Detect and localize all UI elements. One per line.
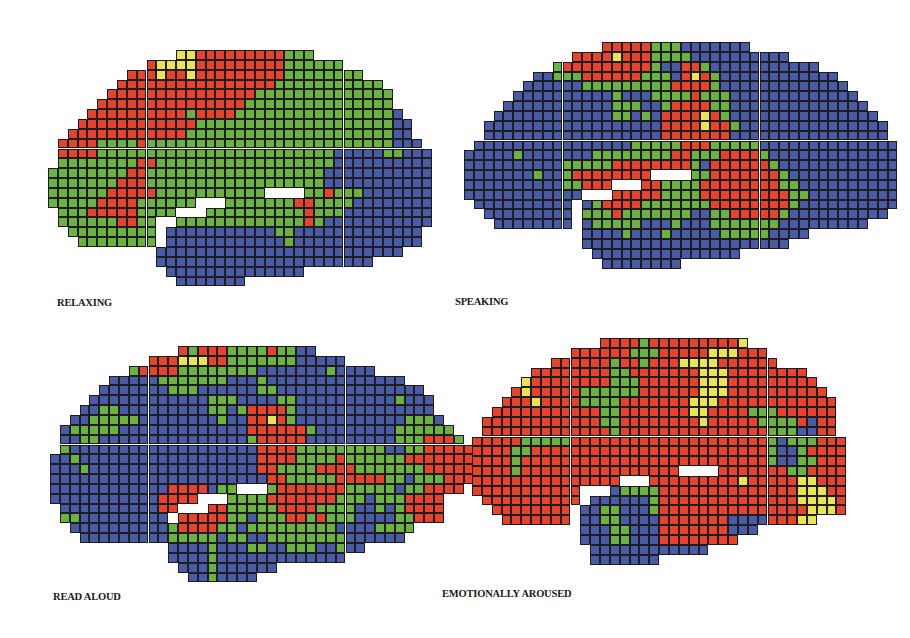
cell-blue bbox=[50, 474, 60, 484]
cell-green bbox=[740, 229, 750, 239]
cell-blue bbox=[235, 227, 245, 237]
cell-green bbox=[671, 200, 681, 210]
cell-green bbox=[405, 425, 415, 435]
cell-blue bbox=[129, 533, 139, 543]
cell-white bbox=[620, 476, 630, 486]
cell-red bbox=[196, 80, 206, 90]
cell-blue bbox=[363, 178, 373, 188]
cell-green bbox=[720, 101, 730, 111]
cell-green bbox=[294, 99, 304, 109]
cell-blue bbox=[383, 158, 393, 168]
cell-green bbox=[217, 376, 227, 386]
cell-green bbox=[247, 494, 257, 504]
cell-blue bbox=[186, 267, 196, 277]
cell-blue bbox=[80, 513, 90, 523]
cell-blue bbox=[543, 200, 553, 210]
cell-blue bbox=[639, 535, 649, 545]
cell-blue bbox=[582, 101, 592, 111]
cell-white bbox=[237, 484, 247, 494]
cell-red bbox=[206, 60, 216, 70]
cell-blue bbox=[393, 227, 403, 237]
cell-red bbox=[649, 407, 659, 417]
cell-blue bbox=[336, 435, 346, 445]
cell-blue bbox=[296, 366, 306, 376]
cell-blue bbox=[139, 395, 149, 405]
cell-red bbox=[158, 356, 168, 366]
cell-blue bbox=[828, 160, 838, 170]
cell-green bbox=[373, 139, 383, 149]
cell-red bbox=[671, 150, 681, 160]
cell-green bbox=[393, 149, 403, 159]
cell-blue bbox=[208, 385, 218, 395]
cell-green bbox=[265, 178, 275, 188]
cell-red bbox=[669, 358, 679, 368]
cell-green bbox=[373, 129, 383, 139]
cell-white bbox=[622, 180, 632, 190]
cell-blue bbox=[828, 81, 838, 91]
cell-green bbox=[336, 445, 346, 455]
cell-blue bbox=[139, 405, 149, 415]
cell-blue bbox=[326, 425, 336, 435]
cell-red bbox=[492, 496, 502, 506]
cell-blue bbox=[740, 121, 750, 131]
cell-green bbox=[314, 158, 324, 168]
cell-blue bbox=[296, 553, 306, 563]
cell-blue bbox=[215, 227, 225, 237]
cell-red bbox=[502, 427, 512, 437]
cell-blue bbox=[227, 405, 237, 415]
cell-green bbox=[247, 356, 257, 366]
cell-blue bbox=[878, 141, 888, 151]
cell-red bbox=[612, 72, 622, 82]
cell-blue bbox=[602, 101, 612, 111]
cell-blue bbox=[582, 91, 592, 101]
cell-red bbox=[225, 89, 235, 99]
cell-green bbox=[196, 149, 206, 159]
cell-blue bbox=[294, 267, 304, 277]
cell-blue bbox=[215, 247, 225, 257]
cell-red bbox=[777, 377, 787, 387]
cell-blue bbox=[149, 504, 159, 514]
cell-blue bbox=[494, 121, 504, 131]
cell-red bbox=[592, 180, 602, 190]
cell-red bbox=[689, 486, 699, 496]
cell-blue bbox=[255, 237, 265, 247]
cell-blue bbox=[336, 553, 346, 563]
cell-red bbox=[590, 446, 600, 456]
cell-blue bbox=[296, 376, 306, 386]
cell-green bbox=[631, 150, 641, 160]
cell-red bbox=[758, 397, 768, 407]
cell-green bbox=[217, 523, 227, 533]
cell-blue bbox=[700, 229, 710, 239]
cell-green bbox=[580, 387, 590, 397]
cell-red bbox=[561, 407, 571, 417]
cell-red bbox=[639, 387, 649, 397]
cell-red bbox=[502, 456, 512, 466]
cell-green bbox=[661, 72, 671, 82]
cell-green bbox=[314, 217, 324, 227]
cell-red bbox=[551, 515, 561, 525]
cell-red bbox=[582, 62, 592, 72]
cell-blue bbox=[422, 149, 432, 159]
cell-blue bbox=[494, 190, 504, 200]
cell-blue bbox=[738, 525, 748, 535]
cell-red bbox=[817, 466, 827, 476]
cell-red bbox=[708, 476, 718, 486]
cell-red bbox=[758, 496, 768, 506]
cell-green bbox=[641, 111, 651, 121]
cell-blue bbox=[590, 555, 600, 565]
cell-green bbox=[215, 217, 225, 227]
cell-blue bbox=[787, 446, 797, 456]
cell-green bbox=[383, 109, 393, 119]
cell-yellow bbox=[708, 397, 718, 407]
cell-red bbox=[679, 437, 689, 447]
cell-red bbox=[777, 466, 787, 476]
cell-blue bbox=[139, 425, 149, 435]
cell-blue bbox=[324, 237, 334, 247]
cell-green bbox=[314, 188, 324, 198]
cell-blue bbox=[50, 454, 60, 464]
cell-red bbox=[769, 209, 779, 219]
cell-green bbox=[521, 446, 531, 456]
cell-green bbox=[296, 454, 306, 464]
cell-red bbox=[97, 208, 107, 218]
cell-blue bbox=[612, 121, 622, 131]
